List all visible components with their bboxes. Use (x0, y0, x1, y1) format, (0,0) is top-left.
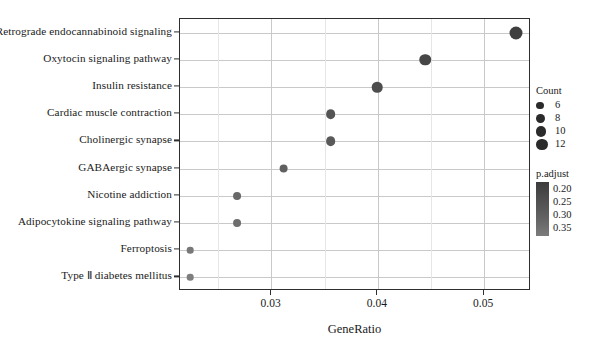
color-legend-title: p.adjust (536, 168, 583, 179)
gridline-h (180, 250, 529, 251)
gridline-h (180, 114, 529, 115)
gridline-h (180, 33, 529, 34)
data-point (326, 137, 336, 147)
data-point (509, 26, 522, 39)
gridline-v-minor (218, 19, 219, 289)
size-legend-title: Count (536, 85, 566, 96)
y-axis-label-3: Cardiac muscle contraction (47, 108, 172, 119)
y-axis-label-8: Ferroptosis (121, 244, 172, 255)
color-legend-ticklabels: 0.20 0.25 0.30 0.35 (553, 182, 583, 236)
size-legend-dot-icon (536, 102, 554, 110)
gridline-h (180, 169, 529, 170)
x-axis-tick (270, 290, 271, 295)
gridline-v-major (378, 19, 379, 289)
size-legend: Count 6 8 10 12 (536, 85, 566, 151)
y-axis-label-1: Oxytocin signaling pathway (43, 53, 172, 64)
data-point (419, 54, 431, 66)
data-point (233, 192, 241, 200)
data-point (187, 274, 194, 281)
data-point (279, 164, 288, 173)
x-axis-tick (483, 290, 484, 295)
size-legend-label: 10 (555, 126, 566, 137)
x-axis-ticklabel-2: 0.05 (473, 297, 493, 309)
size-legend-item: 6 (536, 99, 566, 112)
x-axis-tick (376, 290, 377, 295)
size-legend-label: 8 (555, 113, 560, 124)
size-legend-dot-icon (536, 126, 554, 136)
y-axis-labels: Retrograde endocannabinoid signaling Oxy… (0, 18, 172, 290)
y-axis-label-9: Type Ⅱ diabetes mellitus (61, 271, 172, 282)
x-axis-ticklabel-0: 0.03 (261, 297, 281, 309)
color-legend: p.adjust 0.20 0.25 0.30 0.35 (536, 168, 583, 236)
gridline-h (180, 60, 529, 61)
color-legend-label: 0.35 (553, 223, 571, 234)
gridline-v-major (271, 19, 272, 289)
gridline-h (180, 277, 529, 278)
size-legend-item: 10 (536, 125, 566, 138)
color-legend-label: 0.30 (553, 210, 571, 221)
y-axis-label-4: Cholinergic synapse (79, 135, 172, 146)
y-axis-label-5: GABAergic synapse (78, 162, 172, 173)
size-legend-label: 12 (555, 139, 566, 150)
size-legend-dot-icon (536, 139, 554, 151)
gridline-v-minor (325, 19, 326, 289)
color-legend-colorbar (536, 182, 549, 236)
color-legend-label: 0.25 (553, 197, 571, 208)
dotplot-figure: Retrograde endocannabinoid signaling Oxy… (0, 0, 589, 351)
plot-panel (179, 18, 530, 290)
gridline-v-minor (431, 19, 432, 289)
size-legend-dot-icon (536, 114, 554, 123)
color-legend-label: 0.20 (553, 184, 571, 195)
size-legend-label: 6 (555, 100, 560, 111)
x-axis-ticklabel-1: 0.04 (367, 297, 387, 309)
y-axis-label-2: Insulin resistance (92, 80, 172, 91)
y-axis-label-6: Nicotine addiction (87, 189, 172, 200)
y-axis-label-0: Retrograde endocannabinoid signaling (0, 26, 172, 37)
gridline-h (180, 87, 529, 88)
size-legend-item: 8 (536, 112, 566, 125)
gridline-h (180, 141, 529, 142)
gridline-v-major (484, 19, 485, 289)
size-legend-item: 12 (536, 138, 566, 151)
data-point (372, 82, 383, 93)
data-point (187, 247, 194, 254)
data-point (326, 109, 336, 119)
y-axis-label-7: Adipocytokine signaling pathway (18, 216, 172, 227)
data-point (233, 219, 241, 227)
x-axis-title: GeneRatio (179, 322, 530, 337)
